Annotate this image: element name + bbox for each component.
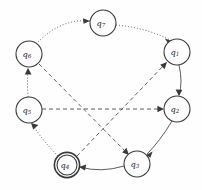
edge-q1-q2 (176, 65, 183, 96)
node-q3[interactable]: q3 (124, 151, 150, 177)
edge-q6-q3 (39, 64, 129, 155)
state-graph: q7 q1 q2 q3 q (0, 0, 202, 190)
edge-q7-q1-path (116, 25, 172, 41)
edge-q5-q6 (25, 68, 32, 97)
node-q6[interactable]: q6 (16, 41, 42, 67)
edge-q2-q3 (146, 121, 172, 158)
edge-q6-q7 (38, 18, 90, 42)
edge-q5-q6-arrowhead (25, 68, 32, 75)
edge-q2-q3-path (147, 121, 172, 154)
edge-q4-q1-path (77, 63, 166, 156)
edge-q4-q1 (77, 62, 167, 156)
edge-q4-q5-arrowhead (31, 123, 38, 130)
node-q4[interactable]: q4 (54, 152, 79, 177)
edge-q5-q2-arrowhead (157, 106, 164, 112)
edge-q4-q5 (31, 123, 58, 156)
diagram-canvas: q7 q1 q2 q3 q (0, 0, 202, 190)
node-q5[interactable]: q5 (16, 97, 42, 123)
edge-q6-q7-path (38, 21, 90, 42)
node-q2[interactable]: q2 (164, 96, 190, 122)
edge-q3-q4-path (80, 166, 124, 170)
node-q7[interactable]: q7 (90, 10, 116, 36)
edge-q5-q2 (42, 106, 164, 112)
edge-q6-q7-arrowhead (83, 18, 90, 24)
edge-q3-q4 (79, 164, 124, 170)
edge-q4-q5-path (32, 124, 58, 156)
node-q1[interactable]: q1 (164, 39, 190, 65)
edge-q7-q1 (116, 25, 172, 44)
edge-q1-q2-arrowhead (176, 89, 183, 96)
